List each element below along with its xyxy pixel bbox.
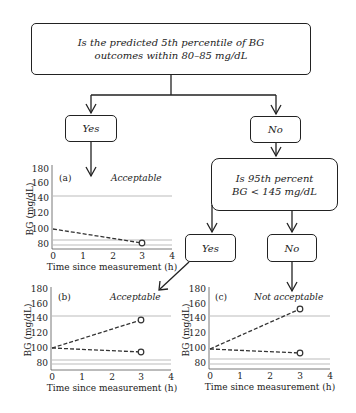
svg-text:3: 3: [297, 371, 303, 381]
svg-text:BG (mg/dL): BG (mg/dL): [181, 304, 191, 357]
svg-text:Acceptable: Acceptable: [109, 292, 161, 302]
svg-text:(c): (c): [215, 292, 227, 302]
svg-text:Not acceptable: Not acceptable: [253, 292, 323, 302]
svg-text:160: 160: [31, 299, 48, 309]
svg-text:100: 100: [31, 343, 48, 353]
svg-text:3: 3: [139, 251, 145, 261]
svg-text:(b): (b): [58, 292, 71, 302]
chart-panel-b: 180160140 12010080 012 34 Time since mea…: [23, 284, 177, 393]
svg-text:180: 180: [32, 164, 49, 174]
svg-text:3: 3: [138, 372, 144, 382]
svg-text:BG (mg/dL): BG (mg/dL): [23, 304, 33, 357]
svg-text:2: 2: [110, 251, 116, 261]
svg-text:80: 80: [37, 358, 49, 368]
svg-text:120: 120: [189, 328, 206, 338]
chart-panel-a: 180160140 12010080 012 34 Time since mea…: [25, 164, 177, 272]
svg-text:Time since measurement (h): Time since measurement (h): [205, 382, 335, 392]
svg-text:80: 80: [38, 239, 50, 249]
svg-text:160: 160: [189, 299, 206, 309]
svg-text:180: 180: [31, 284, 48, 294]
svg-text:BG (mg/dL): BG (mg/dL): [25, 183, 35, 236]
svg-text:100: 100: [189, 343, 206, 353]
svg-text:Acceptable: Acceptable: [110, 173, 162, 183]
svg-text:0: 0: [49, 372, 55, 382]
svg-text:4: 4: [168, 372, 174, 382]
svg-text:4: 4: [327, 371, 333, 381]
svg-text:140: 140: [31, 313, 48, 323]
svg-text:4: 4: [169, 251, 175, 261]
svg-text:140: 140: [189, 313, 206, 323]
svg-text:Time since measurement (h): Time since measurement (h): [47, 383, 177, 393]
svg-text:(a): (a): [59, 173, 71, 183]
svg-text:80: 80: [195, 358, 207, 368]
svg-text:1: 1: [79, 372, 85, 382]
chart-panel-c: 180160140 12010080 012 34 Time since mea…: [181, 284, 335, 392]
svg-text:2: 2: [267, 371, 273, 381]
diagram-canvas: 180160140 12010080 012 34 Time since mea…: [0, 0, 356, 413]
svg-text:0: 0: [207, 371, 213, 381]
svg-text:2: 2: [109, 372, 115, 382]
svg-text:0: 0: [50, 251, 56, 261]
svg-text:1: 1: [80, 251, 86, 261]
connector-lines: [91, 75, 292, 291]
svg-text:1: 1: [237, 371, 243, 381]
svg-text:120: 120: [31, 328, 48, 338]
svg-text:Time since measurement (h): Time since measurement (h): [47, 262, 177, 272]
svg-text:180: 180: [189, 284, 206, 294]
